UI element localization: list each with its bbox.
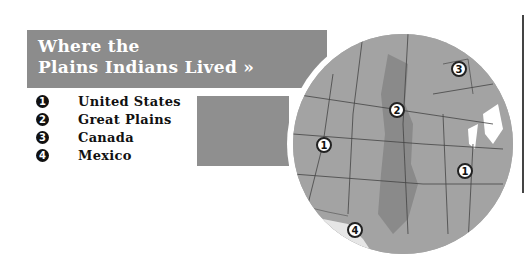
title-line-1: Where the — [38, 36, 254, 57]
legend-label: Canada — [78, 130, 134, 145]
marker-4-mexico: 4 — [347, 222, 363, 238]
legend-item-canada: 3Canada — [36, 128, 181, 146]
gray-block — [197, 96, 289, 166]
legend-item-mexico: 4Mexico — [36, 146, 181, 164]
legend-label: United States — [78, 94, 181, 109]
legend-label: Mexico — [78, 148, 132, 163]
legend-label: Great Plains — [78, 112, 172, 127]
title-line-2: Plains Indians Lived » — [38, 57, 254, 78]
number-2-icon: 2 — [36, 113, 49, 126]
number-1-icon: 1 — [36, 95, 49, 108]
number-4-icon: 4 — [36, 149, 49, 162]
number-3-icon: 3 — [36, 131, 49, 144]
marker-1-united-states-west: 1 — [316, 137, 332, 153]
map-circle-frame: 3 2 1 1 4 — [287, 28, 519, 258]
legend-item-united-states: 1United States — [36, 92, 181, 110]
marker-3-canada: 3 — [451, 61, 467, 77]
page-edge-line — [522, 15, 524, 193]
marker-2-great-plains: 2 — [389, 102, 405, 118]
map-legend: 1United States 2Great Plains 3Canada 4Me… — [36, 92, 181, 164]
page-title: Where the Plains Indians Lived » — [38, 36, 254, 78]
map-circle: 3 2 1 1 4 — [293, 34, 513, 254]
legend-item-great-plains: 2Great Plains — [36, 110, 181, 128]
marker-1-united-states-east: 1 — [457, 163, 473, 179]
